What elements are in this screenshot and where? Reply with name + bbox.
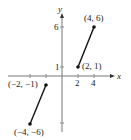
x-tick-2: 2: [75, 79, 80, 88]
segment-lower: [30, 85, 46, 124]
label-point-neg4-neg6: (−4, −6): [14, 128, 44, 137]
point-neg2-neg1: [44, 83, 48, 87]
label-point-neg2-neg1: (−2, −1): [8, 80, 38, 89]
x-axis-label: x: [117, 72, 121, 81]
y-tick-1: 1: [55, 63, 60, 72]
point-2-1: [76, 65, 80, 69]
point-4-6: [92, 25, 96, 29]
label-point-2-1: (2, 1): [82, 62, 102, 71]
y-axis-label: y: [58, 5, 62, 14]
label-point-4-6: (4, 6): [84, 14, 104, 23]
y-tick-6: 6: [54, 23, 59, 32]
coordinate-plane: [0, 0, 131, 140]
point-neg4-neg6: [28, 122, 32, 126]
x-tick-4: 4: [91, 79, 96, 88]
x-axis-arrow-icon: [110, 74, 115, 78]
